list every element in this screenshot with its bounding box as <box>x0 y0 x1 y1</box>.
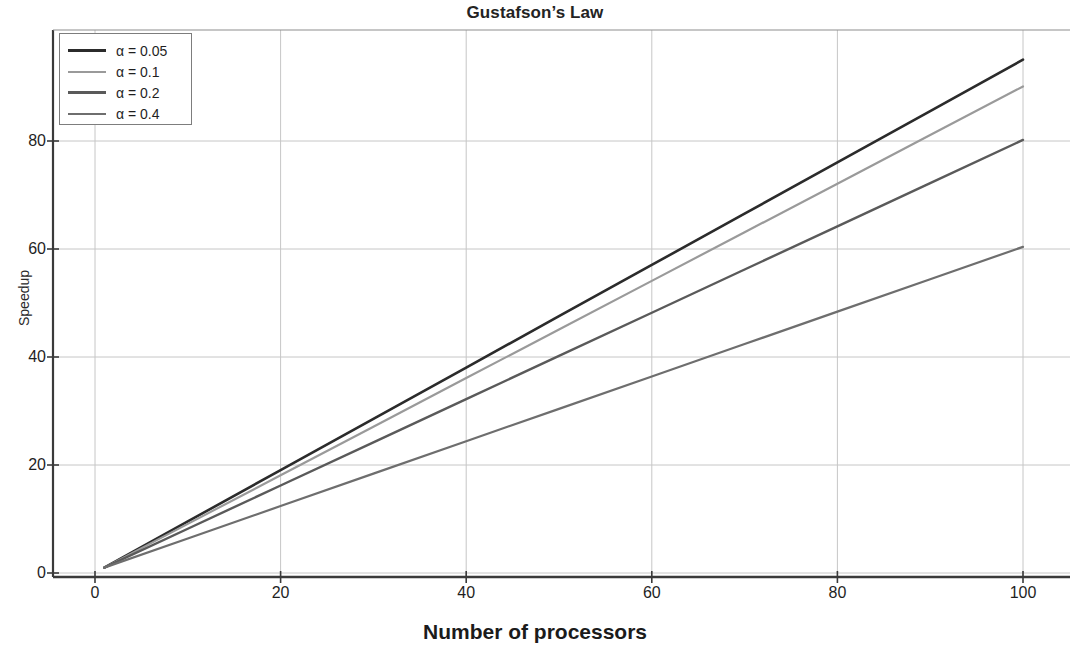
legend-item-label: α = 0.1 <box>116 64 160 80</box>
legend-item[interactable]: α = 0.2 <box>68 82 183 103</box>
legend-line-icon <box>68 113 106 115</box>
x-tick-label: 0 <box>65 584 125 602</box>
legend-line-icon <box>68 71 106 73</box>
x-tick-label: 20 <box>251 584 311 602</box>
grid-lines <box>53 30 1070 577</box>
legend-item[interactable]: α = 0.1 <box>68 61 183 82</box>
legend-item-label: α = 0.2 <box>116 85 160 101</box>
x-tick-label: 60 <box>622 584 682 602</box>
x-tick-label: 80 <box>807 584 867 602</box>
chart-legend: α = 0.05α = 0.1α = 0.2α = 0.4 <box>59 33 192 125</box>
legend-item[interactable]: α = 0.4 <box>68 103 183 124</box>
x-tick-label: 100 <box>993 584 1053 602</box>
legend-line-icon <box>68 49 106 51</box>
legend-item-label: α = 0.05 <box>116 43 167 59</box>
x-axis-label: Number of processors <box>0 620 1070 644</box>
y-tick-label: 0 <box>0 562 46 584</box>
chart-figure: Gustafson’s Law 020406080100 020406080 S… <box>0 0 1070 653</box>
x-tick-label: 40 <box>436 584 496 602</box>
y-tick-label: 20 <box>0 454 46 476</box>
legend-line-icon <box>68 91 106 93</box>
data-series <box>104 60 1023 568</box>
y-tick-label: 80 <box>0 130 46 152</box>
axes-frame <box>53 30 1070 577</box>
legend-item-label: α = 0.4 <box>116 106 160 122</box>
y-axis-label: Speedup <box>16 238 32 358</box>
legend-item[interactable]: α = 0.05 <box>68 40 183 61</box>
